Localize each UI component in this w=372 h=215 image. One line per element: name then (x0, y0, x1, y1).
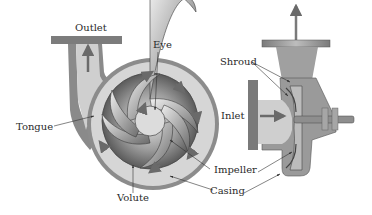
label-casing: Casing (210, 186, 245, 196)
label-outlet: Outlet (75, 23, 107, 33)
pump-diagram (0, 0, 372, 215)
outlet-flange (51, 36, 122, 44)
inlet-channel (258, 100, 292, 144)
bearing-left (322, 108, 328, 130)
label-shroud: Shroud (220, 57, 257, 67)
side-section-view (248, 6, 354, 176)
label-tongue: Tongue (16, 122, 53, 132)
impeller-eye (135, 106, 165, 136)
inlet-flange (248, 80, 258, 150)
discharge-neck (276, 47, 318, 80)
label-impeller: Impeller (214, 165, 257, 175)
label-inlet: Inlet (221, 111, 245, 121)
label-eye: Eye (153, 40, 172, 50)
discharge-flange (262, 40, 330, 47)
label-volute: Volute (117, 193, 149, 203)
bearing-right (332, 108, 338, 130)
